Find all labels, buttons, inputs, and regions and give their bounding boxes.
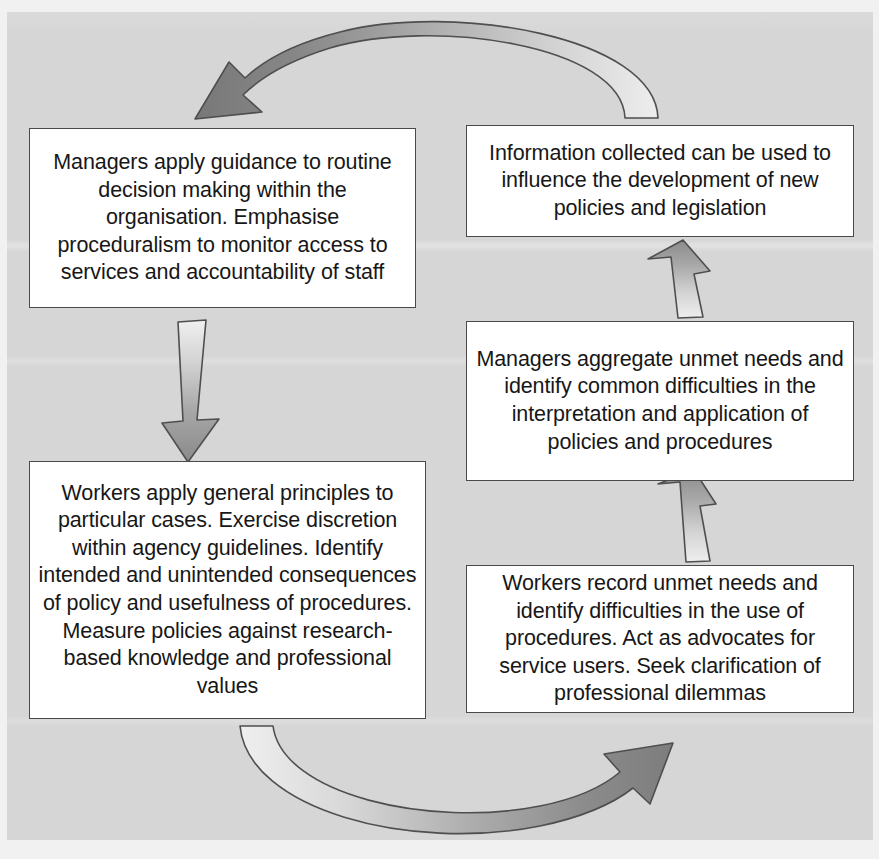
box-text: Information collected can be used to inf… [467,140,853,223]
box-workers-record-unmet-needs: Workers record unmet needs and identify … [466,565,854,713]
box-text: Workers record unmet needs and identify … [467,570,853,708]
diagram-page: Managers apply guidance to routine decis… [0,0,879,859]
box-managers-apply-guidance: Managers apply guidance to routine decis… [29,128,416,308]
box-text: Managers apply guidance to routine decis… [30,149,415,287]
box-workers-apply-general-principles: Workers apply general principles to part… [29,461,426,719]
box-text: Workers apply general principles to part… [30,480,425,701]
box-managers-aggregate-unmet-needs: Managers aggregate unmet needs and ident… [466,321,854,481]
box-information-collected: Information collected can be used to inf… [466,125,854,237]
box-text: Managers aggregate unmet needs and ident… [467,346,853,457]
